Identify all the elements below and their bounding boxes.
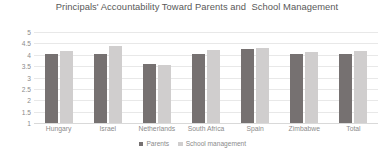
bar-group <box>83 32 132 123</box>
bar-group <box>34 32 83 123</box>
bar-parents[interactable] <box>45 54 58 123</box>
bar-school-management[interactable] <box>158 65 171 123</box>
bar-parents[interactable] <box>192 54 205 123</box>
x-tick-label: South Africa <box>181 124 230 133</box>
bar-group <box>181 32 230 123</box>
bar-school-management[interactable] <box>207 50 220 123</box>
bar-group <box>329 32 378 123</box>
legend-item[interactable]: School management <box>178 140 246 148</box>
chart-title: Principals' Accountability Toward Parent… <box>52 1 342 14</box>
bar-parents[interactable] <box>143 64 156 123</box>
bar-parents[interactable] <box>94 54 107 123</box>
y-tick-label: 1.5 <box>22 108 31 115</box>
legend-swatch-icon <box>178 142 183 147</box>
bar-group <box>132 32 181 123</box>
x-tick-label: Spain <box>231 124 280 133</box>
bar-parents[interactable] <box>290 54 303 123</box>
y-tick-label: 4 <box>27 51 31 58</box>
y-tick-label: 5 <box>27 29 31 36</box>
bar-school-management[interactable] <box>109 46 122 123</box>
x-tick-label: Israel <box>83 124 132 133</box>
y-tick-label: 1 <box>27 120 31 127</box>
y-tick-label: 2 <box>27 97 31 104</box>
y-axis: 11.522.533.544.55 <box>0 32 31 123</box>
x-tick-label: Zimbabwe <box>280 124 329 133</box>
bar-school-management[interactable] <box>256 48 269 123</box>
bar-group <box>231 32 280 123</box>
bar-school-management[interactable] <box>305 52 318 123</box>
x-axis: HungaryIsraelNetherlandsSouth AfricaSpai… <box>34 124 378 133</box>
legend-label: Parents <box>146 140 169 148</box>
legend-swatch-icon <box>139 142 144 147</box>
y-tick-label: 3 <box>27 74 31 81</box>
bar-parents[interactable] <box>241 49 254 123</box>
bar-groups <box>34 32 378 123</box>
y-tick-label: 3.5 <box>22 63 31 70</box>
chart-legend: ParentsSchool management <box>0 140 385 148</box>
y-tick-label: 2.5 <box>22 85 31 92</box>
legend-item[interactable]: Parents <box>139 140 169 148</box>
x-tick-label: Hungary <box>34 124 83 133</box>
bar-school-management[interactable] <box>60 51 73 123</box>
legend-label: School management <box>186 140 246 148</box>
x-tick-label: Netherlands <box>132 124 181 133</box>
y-tick-label: 4.5 <box>22 40 31 47</box>
bar-parents[interactable] <box>339 54 352 123</box>
bar-chart: Principals' Accountability Toward Parent… <box>0 0 385 156</box>
bar-school-management[interactable] <box>354 51 367 123</box>
bar-group <box>280 32 329 123</box>
x-tick-label: Total <box>329 124 378 133</box>
